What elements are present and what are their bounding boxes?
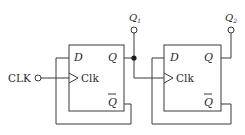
clk-label: CLK: [8, 72, 31, 84]
flipflop-1-q-label: Q: [108, 51, 117, 64]
flipflop-1-clk-label: Clk: [81, 72, 99, 84]
flipflop-1-qbar-label: Q: [108, 96, 117, 109]
flipflop-2-q-label: Q: [204, 51, 213, 64]
q2-label: Q2: [225, 12, 237, 24]
flipflop-2-clk-label: Clk: [176, 72, 194, 84]
flipflop-2: D Clk Q Q: [164, 45, 221, 111]
junction-dot: [131, 55, 136, 60]
flipflop-2-qbar-label: Q: [204, 96, 213, 109]
flipflop-2-d-label: D: [169, 51, 179, 64]
circuit-diagram: D Clk Q Q D Clk Q Q CLK Q1 Q2: [0, 0, 245, 135]
clk-terminal-icon: [35, 75, 41, 81]
flipflop-1-d-label: D: [73, 51, 83, 64]
clk-input: CLK: [8, 72, 69, 84]
q2-terminal-icon: [228, 27, 234, 33]
q1-label: Q1: [129, 12, 141, 24]
q1-terminal-icon: [131, 27, 137, 33]
flipflop-1: D Clk Q Q: [69, 45, 124, 111]
flipflop-2-q-wire: [221, 33, 231, 58]
